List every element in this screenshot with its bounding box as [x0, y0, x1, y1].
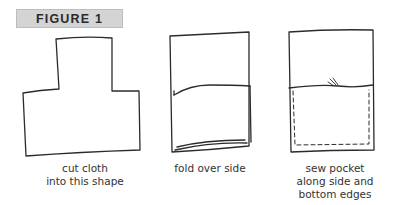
sew-pocket-illustration — [289, 30, 374, 152]
caption-sew: sew pocket along side and bottom edges — [285, 162, 385, 201]
caption-cut: cut cloth into this shape — [30, 162, 140, 188]
caption-fold: fold over side — [160, 162, 260, 175]
fold-illustration — [170, 32, 251, 152]
t-shaped-cloth-illustration — [23, 37, 140, 156]
figure-canvas: FIGURE 1 cut cloth into this shape fold … — [0, 0, 395, 205]
